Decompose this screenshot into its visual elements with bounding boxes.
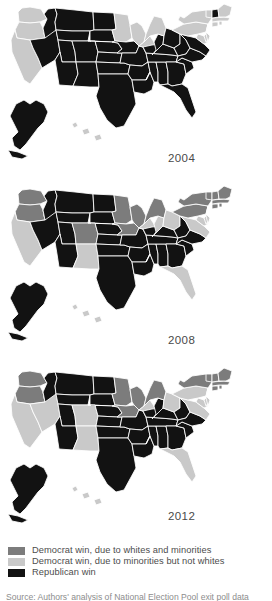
- state-ct: [212, 204, 218, 209]
- state-ga: [166, 244, 186, 268]
- state-al: [156, 426, 168, 449]
- state-tx: [96, 74, 136, 128]
- state-fl: [160, 448, 196, 482]
- legend-label-dem-minorities-not-whites: Democrat win, due to minorities but not …: [32, 556, 224, 567]
- state-tx: [96, 256, 136, 310]
- state-fl: [160, 266, 196, 300]
- year-label-2012: 2012: [168, 510, 195, 522]
- state-vt: [206, 192, 212, 200]
- state-ak: [10, 100, 48, 150]
- state-or: [15, 22, 45, 40]
- state-ri: [219, 385, 222, 389]
- legend-item-dem-minorities-not-whites: Democrat win, due to minorities but not …: [8, 556, 266, 567]
- map-legend: Democrat win, due to whites and minoriti…: [8, 545, 266, 579]
- state-ks: [96, 416, 122, 427]
- state-ga: [166, 62, 186, 86]
- state-vt: [206, 374, 212, 382]
- year-label-2004: 2004: [168, 152, 195, 164]
- state-ri: [219, 203, 222, 207]
- state-co: [72, 223, 98, 244]
- state-ga: [166, 426, 186, 450]
- state-hi: [72, 122, 102, 141]
- states-group: [8, 4, 232, 159]
- state-ri: [219, 21, 222, 25]
- state-al: [156, 244, 168, 267]
- state-wa: [18, 371, 47, 387]
- us-map-2008: [0, 182, 272, 348]
- state-ks: [96, 234, 122, 245]
- state-ak: [10, 282, 48, 332]
- state-wa: [18, 189, 47, 205]
- state-nd: [93, 12, 116, 30]
- state-mt: [55, 372, 94, 395]
- legend-item-republican: Republican win: [8, 567, 266, 578]
- state-mt: [55, 190, 94, 213]
- state-tx: [96, 438, 136, 492]
- state-sd: [90, 30, 115, 42]
- legend-label-republican: Republican win: [32, 567, 96, 578]
- state-ak: [10, 464, 48, 514]
- map-panel-2004: 2004: [0, 0, 272, 182]
- legend-swatch-republican: [8, 569, 25, 577]
- us-map-2012: [0, 364, 272, 530]
- state-nd: [93, 376, 116, 394]
- state-wy: [56, 394, 90, 405]
- state-vt: [206, 10, 212, 18]
- state-hi: [72, 304, 102, 323]
- states-group: [8, 368, 232, 523]
- state-ct: [212, 22, 218, 27]
- state-me: [218, 4, 232, 17]
- state-fl: [160, 84, 196, 118]
- figure-caption: Source: Authors' analysis of National El…: [6, 592, 270, 601]
- legend-label-dem-whites-and-minorities: Democrat win, due to whites and minoriti…: [32, 545, 211, 556]
- state-ok: [96, 244, 130, 256]
- state-nd: [93, 194, 116, 212]
- legend-item-dem-whites-and-minorities: Democrat win, due to whites and minoriti…: [8, 545, 266, 556]
- state-hi: [72, 486, 102, 505]
- state-sd: [90, 394, 115, 406]
- state-wy: [56, 30, 90, 41]
- state-ct: [212, 386, 218, 391]
- state-al: [156, 62, 168, 85]
- state-co: [72, 41, 98, 62]
- state-ak-islands: [8, 332, 28, 341]
- state-ks: [96, 52, 122, 63]
- legend-swatch-dem-minorities-not-whites: [8, 558, 25, 566]
- state-ak-islands: [8, 514, 28, 523]
- state-wa: [18, 7, 47, 23]
- state-or: [15, 204, 45, 222]
- year-label-2008: 2008: [168, 334, 195, 346]
- map-panel-2008: 2008: [0, 182, 272, 364]
- state-wy: [56, 212, 90, 223]
- state-co: [72, 405, 98, 426]
- state-mt: [55, 8, 94, 31]
- state-me: [218, 186, 232, 199]
- state-ak-islands: [8, 150, 28, 159]
- states-group: [8, 186, 232, 341]
- state-me: [218, 368, 232, 381]
- state-or: [15, 386, 45, 404]
- legend-swatch-dem-whites-and-minorities: [8, 547, 25, 555]
- us-map-2004: [0, 0, 272, 166]
- state-ok: [96, 62, 130, 74]
- election-maps-figure: 2004 2008 2012 Democrat win, due to whit…: [0, 0, 272, 601]
- state-ok: [96, 426, 130, 438]
- state-sd: [90, 212, 115, 224]
- map-panel-2012: 2012: [0, 364, 272, 546]
